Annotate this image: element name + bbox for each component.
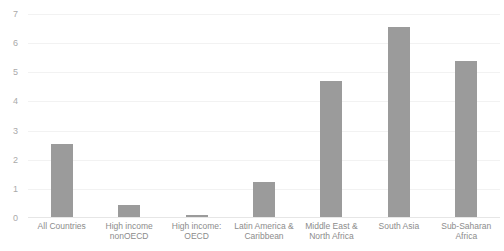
- y-axis-tick: 5: [13, 68, 18, 77]
- bar-slot: [28, 14, 95, 218]
- chart-title: [30, 0, 330, 4]
- x-axis-label-high-income-oecd: High income: OECD: [163, 221, 230, 241]
- x-axis: All Countries High income nonOECD High i…: [28, 221, 500, 251]
- bar-slot: [433, 14, 500, 218]
- plot-area: [28, 14, 500, 218]
- y-axis-tick: 0: [13, 214, 18, 223]
- x-axis-label-sub-saharan-africa: Sub-Saharan Africa: [433, 221, 500, 241]
- x-axis-label-middle-east-north-africa: Middle East & North Africa: [298, 221, 365, 241]
- bar-slot: [95, 14, 162, 218]
- bar-middle-east-north-africa[interactable]: [320, 81, 342, 218]
- x-axis-label-high-income-nonoecd: High income nonOECD: [95, 221, 162, 241]
- bar-slot: [230, 14, 297, 218]
- x-axis-label-south-asia: South Asia: [365, 221, 432, 231]
- x-axis-line: [28, 217, 500, 218]
- x-axis-label-all-countries: All Countries: [28, 221, 95, 231]
- y-axis-tick: 2: [13, 155, 18, 164]
- bar-latin-america-caribbean[interactable]: [253, 182, 275, 218]
- bar-sub-saharan-africa[interactable]: [455, 61, 477, 218]
- y-axis-tick: 6: [13, 39, 18, 48]
- bar-slot: [298, 14, 365, 218]
- y-axis-tick: 1: [13, 184, 18, 193]
- y-axis-tick: 3: [13, 126, 18, 135]
- y-axis: 7 6 5 4 3 2 1 0: [0, 14, 24, 218]
- bar-slot: [163, 14, 230, 218]
- bar-all-countries[interactable]: [51, 144, 73, 218]
- y-axis-tick: 4: [13, 97, 18, 106]
- y-axis-tick: 7: [13, 10, 18, 19]
- bar-chart: 7 6 5 4 3 2 1 0: [0, 0, 504, 251]
- bar-south-asia[interactable]: [388, 27, 410, 218]
- bar-slot: [365, 14, 432, 218]
- x-axis-label-latin-america-caribbean: Latin America & Caribbean: [230, 221, 297, 241]
